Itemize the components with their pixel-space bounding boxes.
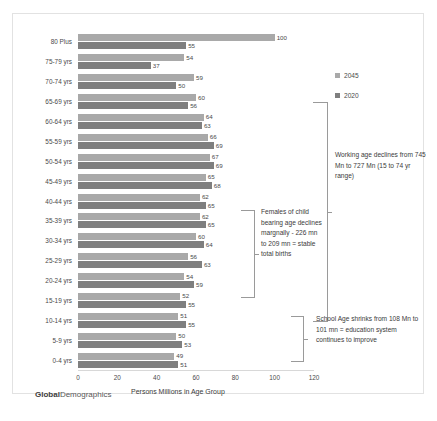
y-axis-category-label: 45-49 yrs (45, 174, 72, 190)
bar-value-label: 65 (208, 202, 215, 209)
bar-value-label: 65 (208, 221, 215, 228)
bar-2020[interactable] (78, 42, 186, 49)
bar-2045[interactable] (78, 174, 206, 181)
bar-2020[interactable] (78, 182, 212, 189)
annotation-child-bearing-age: Females of child bearing age declines ma… (261, 207, 323, 260)
bar-group: 15-19 yrs5255 (78, 293, 314, 308)
bar-2020[interactable] (78, 281, 194, 288)
y-axis-category-label: 70-74 yrs (45, 74, 72, 90)
bar-value-label: 52 (182, 292, 189, 299)
legend-swatch-icon (335, 93, 340, 98)
bar-2020[interactable] (78, 162, 214, 169)
bar-2020[interactable] (78, 301, 186, 308)
bar-value-label: 53 (184, 341, 191, 348)
y-axis-category-label: 0-4 yrs (52, 353, 72, 369)
bar-value-label: 69 (216, 142, 223, 149)
bracket-child-bearing-age (241, 210, 255, 298)
bar-value-label: 69 (216, 162, 223, 169)
bar-2045[interactable] (78, 293, 180, 300)
legend-item-2020[interactable]: 2020 (335, 92, 359, 99)
watermark-logo: GlobalDemographics (35, 390, 111, 399)
bar-2020[interactable] (78, 221, 206, 228)
x-axis-tick-label: 60 (192, 374, 199, 381)
bar-2045[interactable] (78, 213, 200, 220)
bar-2045[interactable] (78, 353, 174, 360)
bar-value-label: 59 (196, 281, 203, 288)
y-axis-category-label: 15-19 yrs (45, 293, 72, 309)
bar-2020[interactable] (78, 241, 204, 248)
bar-value-label: 54 (186, 273, 193, 280)
bar-2045[interactable] (78, 273, 184, 280)
bar-2020[interactable] (78, 122, 202, 129)
bar-group: 45-49 yrs6568 (78, 174, 314, 189)
bar-value-label: 63 (204, 122, 211, 129)
bar-2020[interactable] (78, 202, 206, 209)
bar-group: 65-69 yrs6056 (78, 94, 314, 109)
bar-value-label: 68 (214, 182, 221, 189)
bar-value-label: 55 (188, 301, 195, 308)
bar-2045[interactable] (78, 333, 176, 340)
bar-2020[interactable] (78, 361, 178, 368)
y-axis-category-label: 25-29 yrs (45, 253, 72, 269)
bar-2045[interactable] (78, 194, 200, 201)
bar-value-label: 67 (212, 153, 219, 160)
bar-value-label: 54 (186, 54, 193, 61)
bar-2045[interactable] (78, 154, 210, 161)
annotation-working-age: Working age declines from 745 Mn to 727 … (335, 150, 427, 182)
bar-2045[interactable] (78, 233, 196, 240)
annotation-school-age: School Age shrinks from 108 Mn to 101 mn… (316, 314, 420, 346)
y-axis-category-label: 65-69 yrs (45, 94, 72, 110)
watermark-light: Demographics (60, 390, 112, 399)
x-axis-tick-label: 40 (153, 374, 160, 381)
bar-2020[interactable] (78, 62, 151, 69)
bar-2020[interactable] (78, 341, 182, 348)
legend-swatch-icon (335, 73, 340, 78)
legend-item-2045[interactable]: 2045 (335, 72, 359, 79)
x-axis-tick-label: 0 (76, 374, 80, 381)
bar-2020[interactable] (78, 142, 214, 149)
bar-value-label: 64 (206, 241, 213, 248)
bar-group: 60-64 yrs6463 (78, 114, 314, 129)
y-axis-category-label: 55-59 yrs (45, 134, 72, 150)
y-axis-category-label: 50-54 yrs (45, 154, 72, 170)
bar-group: 10-14 yrs5155 (78, 313, 314, 328)
bar-2045[interactable] (78, 34, 275, 41)
bar-group: 55-59 yrs6669 (78, 134, 314, 149)
bar-group: 20-24 yrs5459 (78, 273, 314, 288)
bar-2020[interactable] (78, 102, 188, 109)
x-axis-tick-label: 80 (232, 374, 239, 381)
x-axis-tick-label: 100 (269, 374, 280, 381)
y-axis-category-label: 40-44 yrs (45, 194, 72, 210)
chart-legend: 2045 2020 (335, 72, 359, 112)
y-axis-category-label: 5-9 yrs (52, 333, 72, 349)
bar-2045[interactable] (78, 54, 184, 61)
bar-2020[interactable] (78, 82, 176, 89)
bar-group: 70-74 yrs5950 (78, 74, 314, 89)
bar-2045[interactable] (78, 114, 204, 121)
bar-group: 50-54 yrs6769 (78, 154, 314, 169)
y-axis-category-label: 10-14 yrs (45, 313, 72, 329)
bar-value-label: 56 (190, 102, 197, 109)
bar-2045[interactable] (78, 313, 178, 320)
bar-2045[interactable] (78, 253, 188, 260)
bar-value-label: 100 (277, 34, 287, 41)
bar-value-label: 56 (190, 253, 197, 260)
bar-value-label: 62 (202, 213, 209, 220)
bar-group: 0-4 yrs4951 (78, 353, 314, 368)
bar-value-label: 65 (208, 173, 215, 180)
bar-2045[interactable] (78, 74, 194, 81)
y-axis-category-label: 30-34 yrs (45, 233, 72, 249)
y-axis-category-label: 60-64 yrs (45, 114, 72, 130)
bar-value-label: 51 (180, 312, 187, 319)
bar-2020[interactable] (78, 321, 186, 328)
bar-2045[interactable] (78, 134, 208, 141)
bar-2020[interactable] (78, 261, 202, 268)
bar-2045[interactable] (78, 94, 196, 101)
x-axis-tick-label: 20 (114, 374, 121, 381)
bar-value-label: 37 (153, 62, 160, 69)
y-axis-category-label: 35-39 yrs (45, 213, 72, 229)
bar-group: 5-9 yrs5053 (78, 333, 314, 348)
bar-value-label: 51 (180, 361, 187, 368)
bar-value-label: 55 (188, 42, 195, 49)
x-axis-tick-label: 120 (309, 374, 320, 381)
